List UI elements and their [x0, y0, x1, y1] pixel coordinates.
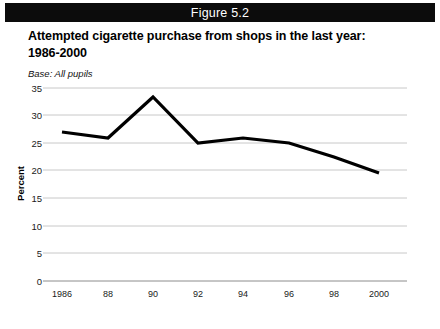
x-tick-label-2000: 2000 — [357, 289, 401, 299]
line-chart-svg — [0, 0, 440, 329]
x-tick-label-92: 92 — [176, 289, 220, 299]
gridlines — [43, 88, 407, 281]
x-tick-label-96: 96 — [267, 289, 311, 299]
x-tick-label-1986: 1986 — [40, 289, 84, 299]
chart-plot-area: Percent 35 30 25 20 15 10 5 0 1986 88 90… — [0, 0, 440, 329]
x-tick-label-88: 88 — [86, 289, 130, 299]
data-series-line — [62, 97, 379, 173]
x-tick-label-94: 94 — [221, 289, 265, 299]
x-tick-label-90: 90 — [131, 289, 175, 299]
x-tick-label-98: 98 — [312, 289, 356, 299]
